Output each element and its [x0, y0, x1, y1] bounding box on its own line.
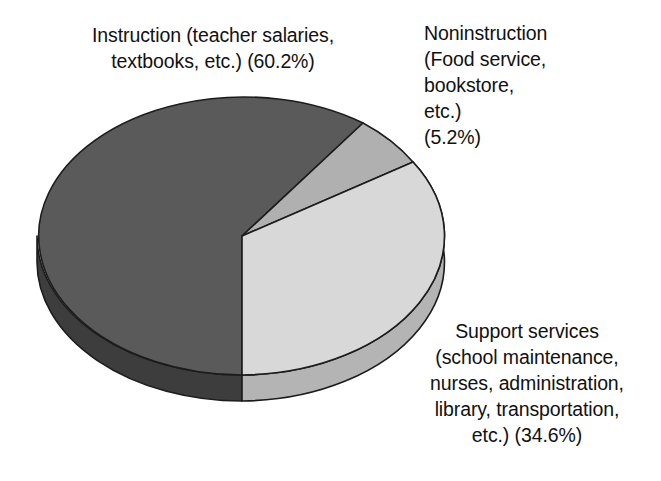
pie-label-instruction: Instruction (teacher salaries, textbooks…: [48, 22, 378, 74]
pie-chart-page: Instruction (teacher salaries, textbooks…: [0, 0, 661, 481]
pie-label-support-services: Support services (school maintenance, nu…: [398, 318, 656, 448]
pie-label-noninstruction: Noninstruction (Food service, bookstore,…: [424, 20, 639, 150]
